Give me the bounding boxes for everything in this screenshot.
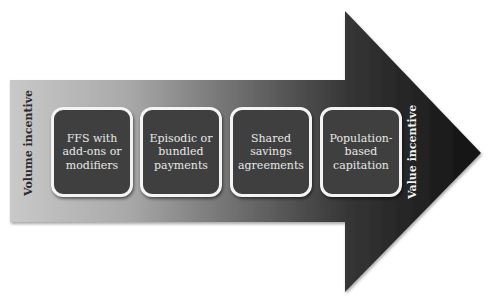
volume-incentive-label: Volume incentive [22, 90, 35, 196]
stage-ffs-box: FFS with add-ons or modifiers [51, 107, 133, 197]
stage-label: Population- based capitation [325, 132, 396, 173]
stage-shared-savings-box: Shared savings agreements [230, 107, 312, 197]
stage-label: Shared savings agreements [234, 132, 308, 173]
stage-label: FFS with add-ons or modifiers [58, 132, 125, 173]
value-incentive-label: Value incentive [406, 105, 419, 199]
stage-label: Episodic or bundled payments [146, 132, 217, 173]
stage-episodic-box: Episodic or bundled payments [140, 107, 222, 197]
stage-capitation-box: Population- based capitation [320, 107, 402, 197]
